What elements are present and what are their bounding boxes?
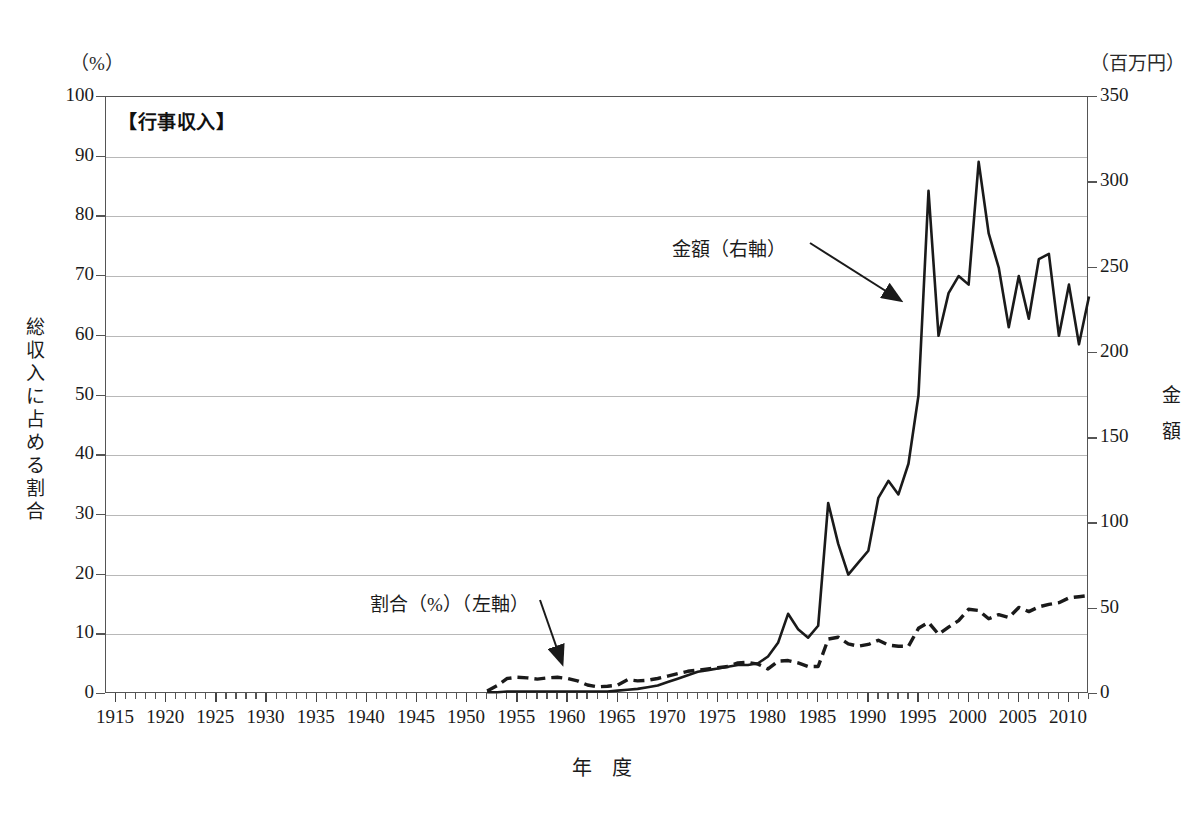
x-tick-minor	[125, 693, 126, 699]
y-tick-mark-left	[96, 454, 105, 455]
x-tick-major	[968, 693, 969, 702]
x-tick-minor	[958, 693, 959, 699]
y-tick-label-left: 10	[48, 621, 94, 643]
x-tick-minor	[526, 693, 527, 699]
x-tick-minor	[677, 693, 678, 699]
x-tick-major	[717, 693, 718, 702]
y-tick-label-left: 100	[48, 84, 94, 106]
y-tick-label-left: 70	[48, 263, 94, 285]
y-tick-label-left: 20	[48, 562, 94, 584]
x-tick-minor	[225, 693, 226, 699]
x-tick-minor	[1048, 693, 1049, 699]
x-tick-minor	[787, 693, 788, 699]
y-tick-mark-right	[1088, 352, 1097, 353]
x-tick-minor	[486, 693, 487, 699]
x-tick-minor	[978, 693, 979, 699]
x-tick-minor	[647, 693, 648, 699]
y-tick-label-right: 100	[1100, 510, 1146, 532]
x-tick-minor	[386, 693, 387, 699]
y-axis-left-title-char: 割	[22, 477, 48, 500]
x-tick-major	[767, 693, 768, 702]
x-tick-minor	[1038, 693, 1039, 699]
y-tick-label-right: 300	[1100, 169, 1146, 191]
y-tick-mark-right	[1088, 96, 1097, 97]
y-tick-mark-right	[1088, 608, 1097, 609]
x-tick-minor	[235, 693, 236, 699]
x-tick-minor	[406, 693, 407, 699]
x-tick-minor	[697, 693, 698, 699]
y-tick-label-right: 50	[1100, 596, 1146, 618]
y-axis-left-title-char: 入	[22, 362, 48, 385]
annotation-amount-label: 金額（右軸）	[672, 234, 786, 261]
y-tick-mark-right	[1088, 267, 1097, 268]
y-tick-label-left: 0	[48, 681, 94, 703]
x-tick-major	[817, 693, 818, 702]
y-axis-left-title-char: め	[22, 431, 48, 454]
x-tick-minor	[496, 693, 497, 699]
x-tick-minor	[757, 693, 758, 699]
x-tick-minor	[877, 693, 878, 699]
x-tick-major	[165, 693, 166, 702]
x-tick-minor	[476, 693, 477, 699]
y-tick-label-left: 50	[48, 383, 94, 405]
y-tick-mark-right	[1088, 437, 1097, 438]
y-tick-label-left: 90	[48, 144, 94, 166]
x-tick-minor	[346, 693, 347, 699]
x-tick-minor	[506, 693, 507, 699]
right-axis-unit: （百万円）	[1090, 48, 1185, 75]
x-tick-major	[617, 693, 618, 702]
x-tick-minor	[306, 693, 307, 699]
x-tick-minor	[707, 693, 708, 699]
x-tick-minor	[436, 693, 437, 699]
x-tick-minor	[356, 693, 357, 699]
x-tick-major	[867, 693, 868, 702]
x-axis-ticks	[105, 693, 1088, 702]
y-tick-label-right: 350	[1100, 84, 1146, 106]
x-tick-minor	[586, 693, 587, 699]
x-tick-minor	[175, 693, 176, 699]
x-tick-major	[215, 693, 216, 702]
x-tick-minor	[336, 693, 337, 699]
y-tick-label-right: 200	[1100, 340, 1146, 362]
x-tick-major	[1018, 693, 1019, 702]
y-axis-left-title-char: に	[22, 385, 48, 408]
series-layer	[106, 97, 1089, 694]
x-tick-minor	[938, 693, 939, 699]
annotation-ratio-label: 割合（%）（左軸）	[370, 589, 529, 616]
x-tick-minor	[536, 693, 537, 699]
x-tick-minor	[195, 693, 196, 699]
y-tick-mark-left	[96, 574, 105, 575]
y-axis-right-title: 金額	[1158, 378, 1184, 450]
x-tick-minor	[998, 693, 999, 699]
x-tick-minor	[446, 693, 447, 699]
x-tick-minor	[837, 693, 838, 699]
x-tick-minor	[255, 693, 256, 699]
x-tick-minor	[907, 693, 908, 699]
x-tick-minor	[887, 693, 888, 699]
x-tick-minor	[627, 693, 628, 699]
x-tick-minor	[1028, 693, 1029, 699]
y-tick-mark-left	[96, 335, 105, 336]
x-tick-major	[516, 693, 517, 702]
x-tick-minor	[807, 693, 808, 699]
x-tick-major	[1068, 693, 1069, 702]
x-tick-minor	[687, 693, 688, 699]
x-tick-minor	[185, 693, 186, 699]
x-tick-major	[566, 693, 567, 702]
series-line-amount	[487, 162, 1089, 692]
x-tick-minor	[928, 693, 929, 699]
x-tick-minor	[747, 693, 748, 699]
x-tick-minor	[857, 693, 858, 699]
x-tick-major	[466, 693, 467, 702]
x-tick-minor	[827, 693, 828, 699]
x-tick-minor	[296, 693, 297, 699]
y-tick-mark-right	[1088, 693, 1097, 694]
x-tick-major	[667, 693, 668, 702]
x-tick-major	[917, 693, 918, 702]
y-tick-mark-right	[1088, 522, 1097, 523]
x-tick-minor	[205, 693, 206, 699]
x-tick-minor	[546, 693, 547, 699]
chart-page: （%） （百万円） 総収入に占める割合 金額 【行事収入】 0102030405…	[0, 0, 1203, 816]
x-tick-minor	[1078, 693, 1079, 699]
x-tick-minor	[737, 693, 738, 699]
